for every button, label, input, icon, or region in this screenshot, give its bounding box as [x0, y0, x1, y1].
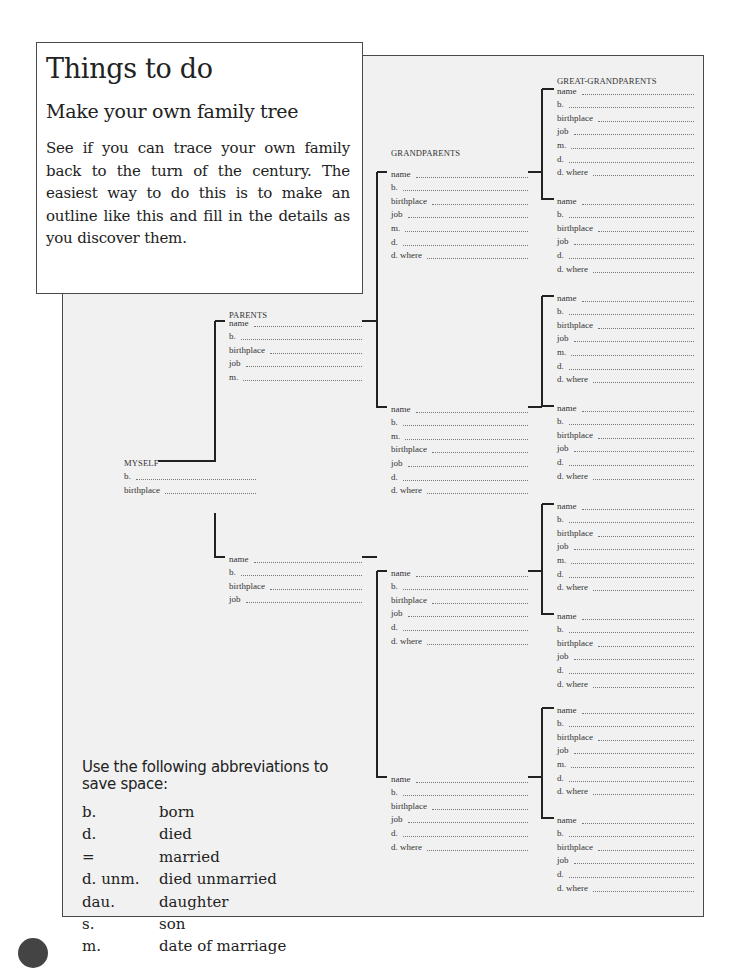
grandparent-4-field[interactable]: job	[391, 812, 528, 826]
great-grandparent-7-field[interactable]: d. where	[557, 784, 694, 798]
fill-in-line[interactable]	[593, 271, 694, 273]
great-grandparent-6-field[interactable]: b.	[557, 622, 694, 636]
great-grandparent-7-field[interactable]: birthplace	[557, 729, 694, 743]
fill-in-line[interactable]	[569, 876, 694, 878]
grandparent-2-field[interactable]: d.	[391, 469, 528, 483]
fill-in-line[interactable]	[569, 106, 694, 108]
fill-in-line[interactable]	[403, 835, 528, 837]
great-grandparent-5-field[interactable]: b.	[557, 512, 694, 526]
fill-in-line[interactable]	[582, 410, 695, 412]
fill-in-line[interactable]	[569, 216, 694, 218]
fill-in-line[interactable]	[598, 739, 694, 741]
great-grandparent-3-field[interactable]: m.	[557, 344, 694, 358]
great-grandparent-8-field[interactable]: birthplace	[557, 839, 694, 853]
grandparent-3-field[interactable]: b.	[391, 579, 528, 593]
great-grandparent-1-field[interactable]: job	[557, 124, 694, 138]
grandparent-1-field[interactable]: birthplace	[391, 193, 528, 207]
great-grandparent-1-field[interactable]: d.	[557, 151, 694, 165]
fill-in-line[interactable]	[582, 618, 695, 620]
great-grandparent-2-field[interactable]: name	[557, 193, 694, 207]
great-grandparent-6-field[interactable]: d.	[557, 662, 694, 676]
fill-in-line[interactable]	[427, 257, 528, 259]
parent-2-field[interactable]: b.	[229, 565, 362, 579]
great-grandparent-5-field[interactable]: name	[557, 498, 694, 512]
great-grandparent-2-field[interactable]: d. where	[557, 261, 694, 275]
fill-in-line[interactable]	[408, 465, 528, 467]
grandparent-3-field[interactable]: d.	[391, 619, 528, 633]
fill-in-line[interactable]	[571, 562, 694, 564]
grandparent-3-field[interactable]: birthplace	[391, 592, 528, 606]
parent-2-field[interactable]: birthplace	[229, 578, 362, 592]
fill-in-line[interactable]	[571, 147, 694, 149]
grandparent-1-field[interactable]: job	[391, 207, 528, 221]
great-grandparent-3-field[interactable]: d.	[557, 358, 694, 372]
great-grandparent-7-field[interactable]: name	[557, 702, 694, 716]
fill-in-line[interactable]	[569, 368, 694, 370]
grandparent-2-field[interactable]: d. where	[391, 483, 528, 497]
grandparent-1-field[interactable]: d. where	[391, 248, 528, 262]
fill-in-line[interactable]	[416, 176, 529, 178]
great-grandparent-2-field[interactable]: birthplace	[557, 220, 694, 234]
fill-in-line[interactable]	[569, 521, 694, 523]
fill-in-line[interactable]	[136, 478, 256, 480]
grandparent-1-field[interactable]: m.	[391, 220, 528, 234]
great-grandparent-6-field[interactable]: job	[557, 649, 694, 663]
grandparent-3-field[interactable]: d. where	[391, 633, 528, 647]
great-grandparent-1-field[interactable]: d. where	[557, 165, 694, 179]
fill-in-line[interactable]	[427, 849, 528, 851]
great-grandparent-6-field[interactable]: birthplace	[557, 635, 694, 649]
great-grandparent-4-field[interactable]: d. where	[557, 468, 694, 482]
great-grandparent-4-field[interactable]: name	[557, 400, 694, 414]
fill-in-line[interactable]	[246, 365, 362, 367]
fill-in-line[interactable]	[569, 464, 694, 466]
fill-in-line[interactable]	[569, 631, 694, 633]
great-grandparent-7-field[interactable]: m.	[557, 756, 694, 770]
fill-in-line[interactable]	[432, 203, 528, 205]
fill-in-line[interactable]	[582, 300, 695, 302]
parent-1-field[interactable]: m.	[229, 369, 362, 383]
fill-in-line[interactable]	[593, 686, 694, 688]
great-grandparent-4-field[interactable]: birthplace	[557, 427, 694, 441]
fill-in-line[interactable]	[569, 161, 694, 163]
great-grandparent-8-field[interactable]: job	[557, 853, 694, 867]
great-grandparent-2-field[interactable]: d.	[557, 247, 694, 261]
fill-in-line[interactable]	[569, 576, 694, 578]
great-grandparent-3-field[interactable]: job	[557, 331, 694, 345]
fill-in-line[interactable]	[569, 672, 694, 674]
fill-in-line[interactable]	[405, 438, 528, 440]
fill-in-line[interactable]	[569, 835, 694, 837]
great-grandparent-5-field[interactable]: birthplace	[557, 525, 694, 539]
grandparent-2-field[interactable]: name	[391, 401, 528, 415]
fill-in-line[interactable]	[569, 780, 694, 782]
grandparent-4-field[interactable]: name	[391, 771, 528, 785]
fill-in-line[interactable]	[598, 327, 694, 329]
fill-in-line[interactable]	[598, 120, 694, 122]
fill-in-line[interactable]	[569, 423, 694, 425]
fill-in-line[interactable]	[574, 243, 694, 245]
myself-field[interactable]: birthplace	[124, 482, 256, 496]
fill-in-line[interactable]	[270, 352, 362, 354]
fill-in-line[interactable]	[403, 189, 528, 191]
fill-in-line[interactable]	[416, 575, 529, 577]
fill-in-line[interactable]	[243, 379, 362, 381]
fill-in-line[interactable]	[408, 821, 528, 823]
fill-in-line[interactable]	[427, 643, 528, 645]
great-grandparent-5-field[interactable]: job	[557, 539, 694, 553]
fill-in-line[interactable]	[427, 492, 528, 494]
grandparent-2-field[interactable]: birthplace	[391, 442, 528, 456]
great-grandparent-3-field[interactable]: name	[557, 290, 694, 304]
fill-in-line[interactable]	[598, 230, 694, 232]
great-grandparent-8-field[interactable]: d.	[557, 866, 694, 880]
fill-in-line[interactable]	[574, 450, 694, 452]
fill-in-line[interactable]	[582, 822, 695, 824]
fill-in-line[interactable]	[571, 354, 694, 356]
fill-in-line[interactable]	[574, 658, 694, 660]
great-grandparent-3-field[interactable]: b.	[557, 304, 694, 318]
grandparent-3-field[interactable]: name	[391, 565, 528, 579]
fill-in-line[interactable]	[582, 93, 695, 95]
grandparent-2-field[interactable]: m.	[391, 428, 528, 442]
fill-in-line[interactable]	[598, 535, 694, 537]
parent-2-field[interactable]: name	[229, 551, 362, 565]
fill-in-line[interactable]	[241, 574, 362, 576]
fill-in-line[interactable]	[432, 602, 528, 604]
